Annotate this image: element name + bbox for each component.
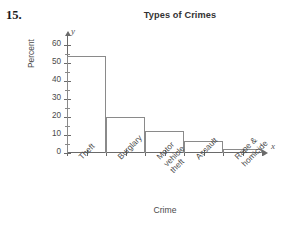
- y-tick-label: 60: [52, 39, 61, 48]
- y-tick-label: 0: [56, 147, 61, 156]
- question-number: 15.: [6, 8, 22, 23]
- y-tick-mark: [64, 45, 71, 46]
- chart-title: Types of Crimes: [110, 10, 250, 20]
- y-axis-arrow-icon: [65, 31, 71, 36]
- figure-container: 15. Types of Crimes Percent y x 01020304…: [0, 0, 292, 225]
- bar: [67, 56, 106, 153]
- y-tick-label: 20: [52, 111, 61, 120]
- x-axis-letter: x: [271, 141, 275, 151]
- y-axis-letter: y: [71, 26, 75, 36]
- y-tick-label: 40: [52, 75, 61, 84]
- y-tick-label: 30: [52, 93, 61, 102]
- y-axis-label: Percent: [26, 39, 36, 68]
- x-axis-label: Crime: [67, 205, 263, 215]
- plot-area: y x 0102030405060: [67, 36, 263, 153]
- y-tick-label: 10: [52, 129, 61, 138]
- y-tick-label: 50: [52, 57, 61, 66]
